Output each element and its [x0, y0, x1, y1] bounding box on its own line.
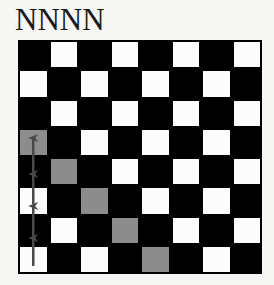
dark-square [201, 216, 232, 245]
square-fill [20, 101, 47, 126]
light-square [201, 186, 232, 215]
square-fill [51, 42, 78, 67]
dark-square [171, 128, 202, 157]
light-square [79, 128, 110, 157]
square-fill [20, 159, 47, 184]
dark-square [232, 186, 263, 215]
square-fill [142, 247, 169, 272]
dark-square [79, 157, 110, 186]
light-square [110, 40, 141, 69]
square-fill [142, 101, 169, 126]
light-square [232, 40, 263, 69]
light-square [232, 157, 263, 186]
dark-square [232, 128, 263, 157]
square-fill [234, 247, 261, 272]
dark-square [79, 40, 110, 69]
dark-square [49, 186, 80, 215]
light-square [49, 216, 80, 245]
square-fill [81, 188, 108, 213]
square-fill [81, 130, 108, 155]
dark-square [110, 128, 141, 157]
dark-square [49, 69, 80, 98]
dark-square [140, 157, 171, 186]
light-square [110, 157, 141, 186]
light-square [18, 186, 49, 215]
light-square [49, 99, 80, 128]
square-fill [173, 130, 200, 155]
square-fill [81, 42, 108, 67]
square-fill [112, 71, 139, 96]
square-fill [51, 130, 78, 155]
highlighted-square [49, 157, 80, 186]
square-fill [112, 101, 139, 126]
light-square [140, 186, 171, 215]
dark-square [49, 245, 80, 274]
dark-square [140, 99, 171, 128]
square-fill [112, 188, 139, 213]
square-fill [203, 188, 230, 213]
square-fill [234, 188, 261, 213]
square-fill [20, 71, 47, 96]
light-square [201, 69, 232, 98]
diagram-title: NNNN [15, 3, 105, 37]
square-fill [203, 101, 230, 126]
highlighted-square [18, 128, 49, 157]
square-fill [112, 159, 139, 184]
square-fill [81, 159, 108, 184]
dark-square [18, 99, 49, 128]
square-fill [203, 130, 230, 155]
dark-square [110, 245, 141, 274]
dark-square [140, 216, 171, 245]
square-fill [112, 42, 139, 67]
light-square [171, 157, 202, 186]
square-fill [173, 42, 200, 67]
square-fill [142, 159, 169, 184]
square-fill [142, 130, 169, 155]
light-square [79, 69, 110, 98]
dark-square [110, 69, 141, 98]
square-fill [173, 101, 200, 126]
light-square [18, 245, 49, 274]
square-fill [51, 101, 78, 126]
light-square [201, 245, 232, 274]
light-square [110, 99, 141, 128]
square-fill [142, 218, 169, 243]
light-square [171, 216, 202, 245]
square-fill [142, 42, 169, 67]
dark-square [232, 245, 263, 274]
square-fill [20, 42, 47, 67]
dark-square [201, 157, 232, 186]
square-fill [203, 159, 230, 184]
square-fill [20, 188, 47, 213]
square-fill [173, 247, 200, 272]
dark-square [140, 40, 171, 69]
light-square [171, 40, 202, 69]
square-fill [81, 101, 108, 126]
square-fill [20, 218, 47, 243]
dark-square [201, 99, 232, 128]
square-fill [51, 71, 78, 96]
square-fill [203, 71, 230, 96]
square-fill [203, 247, 230, 272]
square-fill [142, 188, 169, 213]
dark-square [171, 186, 202, 215]
dark-square [49, 128, 80, 157]
dark-square [201, 40, 232, 69]
square-fill [142, 71, 169, 96]
square-fill [234, 218, 261, 243]
light-square [171, 99, 202, 128]
dark-square [110, 186, 141, 215]
square-fill [81, 218, 108, 243]
dark-square [79, 99, 110, 128]
square-fill [203, 218, 230, 243]
light-square [201, 128, 232, 157]
square-fill [51, 218, 78, 243]
light-square [232, 216, 263, 245]
square-fill [173, 218, 200, 243]
dark-square [18, 157, 49, 186]
square-fill [20, 247, 47, 272]
light-square [49, 40, 80, 69]
square-fill [173, 159, 200, 184]
highlighted-square [79, 186, 110, 215]
light-square [79, 245, 110, 274]
